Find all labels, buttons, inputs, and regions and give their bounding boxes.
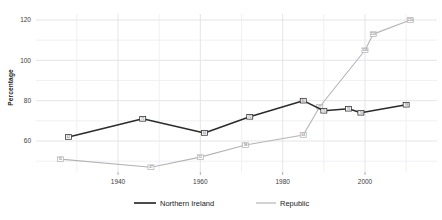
data-point-label: 62 (67, 135, 71, 139)
data-point-label: 47 (149, 165, 153, 169)
gridlines (36, 14, 437, 172)
data-point-label: 120 (408, 18, 413, 22)
data-point-label: 63 (302, 133, 306, 137)
data-point-label: 74 (359, 111, 363, 115)
data-point-label: 75 (322, 109, 326, 113)
chart-canvas: 6080100120194019601980200051475258637710… (0, 0, 442, 220)
y-axis-tick-label: 120 (20, 16, 31, 23)
y-axis-tick-label: 60 (24, 137, 32, 144)
series-line (60, 20, 410, 167)
data-point-label: 64 (203, 131, 207, 135)
x-axis-tick-label: 1960 (193, 178, 208, 185)
data-point-label: 105 (362, 48, 367, 52)
data-point-label: 71 (141, 117, 145, 121)
data-point-label: 78 (404, 103, 408, 107)
data-point-label: 113 (371, 32, 376, 36)
data-point-label: 76 (347, 107, 351, 111)
data-point-label: 72 (248, 115, 252, 119)
series-northern-ireland: 627164728075767478 (66, 98, 410, 139)
legend-label: Republic (280, 199, 309, 208)
x-axis-tick-label: 1940 (111, 178, 126, 185)
x-axis-tick-label: 2000 (358, 178, 373, 185)
y-axis-tick-label: 100 (20, 57, 31, 64)
data-point-label: 80 (302, 99, 306, 103)
data-point-label: 58 (244, 143, 248, 147)
data-point-label: 51 (59, 157, 63, 161)
y-axis-tick-label: 80 (24, 97, 32, 104)
x-axis-tick-label: 1980 (275, 178, 290, 185)
line-chart: Percentage 60801001201940196019802000514… (0, 0, 442, 220)
legend-label: Northern Ireland (160, 199, 214, 208)
series-line (69, 101, 407, 137)
data-point-label: 52 (199, 155, 203, 159)
legend: Northern IrelandRepublic (134, 199, 309, 208)
